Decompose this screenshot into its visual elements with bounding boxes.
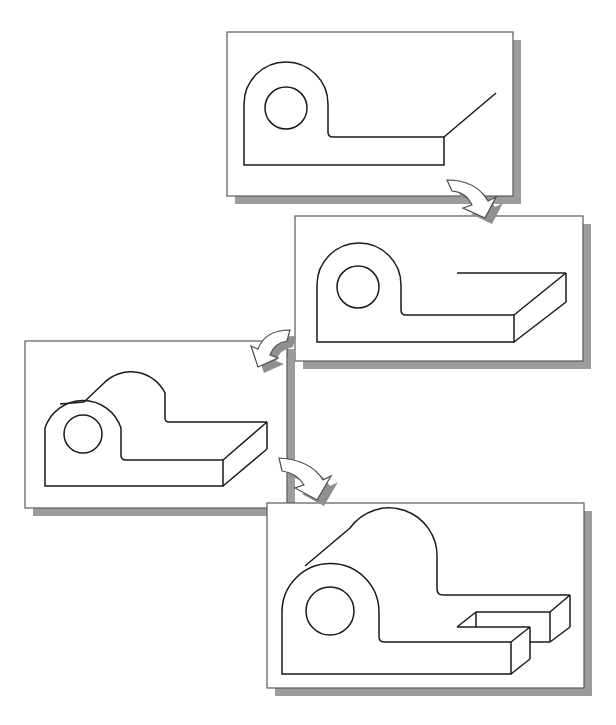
diagram-canvas [0,0,616,725]
panel-step-2 [295,216,591,369]
panel-step-3 [25,341,295,516]
panel-step-4 [267,503,592,696]
panel-frame [295,216,583,361]
panel-frame [25,341,287,508]
panel-step-1 [227,32,521,204]
